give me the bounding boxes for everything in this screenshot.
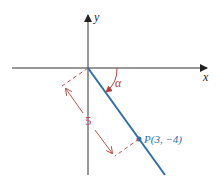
angle-label: α	[115, 76, 122, 90]
dim-line-lower	[95, 130, 112, 153]
dim-extension-bottom	[115, 139, 139, 156]
point-label: P(3, −4)	[143, 133, 182, 146]
dim-extension-top	[62, 68, 88, 86]
terminal-ray	[88, 68, 165, 175]
diagram: y x α 5 P(3, −4)	[0, 0, 219, 184]
dim-line-upper	[66, 89, 83, 113]
x-axis-label: x	[202, 70, 209, 84]
diagram-svg: y x α 5 P(3, −4)	[0, 0, 219, 184]
y-axis-label: y	[93, 10, 100, 24]
length-label: 5	[85, 113, 92, 128]
